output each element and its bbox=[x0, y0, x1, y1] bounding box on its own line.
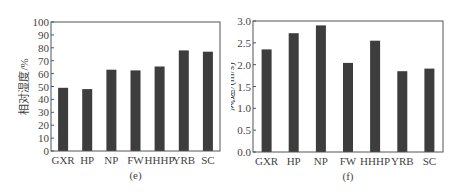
y-tick-label: 0 bbox=[44, 145, 50, 157]
bar-sc bbox=[203, 52, 213, 151]
humidity-bar-chart: GXRHPNPFWHHHPYRBSC0102030405060708090100… bbox=[0, 0, 232, 192]
x-tick-label: HHHP bbox=[145, 154, 175, 166]
panel-label: (e) bbox=[129, 169, 142, 182]
bar-hhhp bbox=[155, 67, 165, 152]
x-tick-label: FW bbox=[127, 154, 144, 166]
x-tick-label: YRB bbox=[172, 154, 195, 166]
x-tick-label: SC bbox=[201, 154, 214, 166]
y-tick-label: 30 bbox=[38, 106, 50, 118]
bar-gxr bbox=[58, 88, 68, 151]
x-tick-label: NP bbox=[314, 155, 328, 167]
x-tick-label: FW bbox=[340, 155, 357, 167]
bar-gxr bbox=[262, 49, 272, 152]
x-tick-label: HP bbox=[80, 154, 94, 166]
bar-fw bbox=[343, 63, 353, 152]
bar-sc bbox=[424, 69, 434, 152]
chart-wind-speed: GXRHPNPFWHHHPYRBSC0.00.51.01.52.02.53.0风… bbox=[231, 0, 463, 192]
y-tick-label: 10 bbox=[38, 132, 50, 144]
bar-hp bbox=[289, 33, 299, 152]
panel-label: (f) bbox=[343, 170, 354, 183]
y-axis-label: 风速/(m/s) bbox=[231, 62, 237, 111]
y-tick-label: 90 bbox=[38, 29, 50, 41]
y-tick-label: 100 bbox=[33, 16, 50, 28]
bar-hp bbox=[82, 89, 92, 151]
bar-np bbox=[316, 25, 326, 152]
y-tick-label: 60 bbox=[38, 68, 50, 80]
x-tick-label: YRB bbox=[391, 155, 414, 167]
y-tick-label: 80 bbox=[38, 42, 50, 54]
bar-yrb bbox=[397, 71, 407, 152]
y-tick-label: 1.0 bbox=[237, 102, 251, 114]
y-tick-label: 20 bbox=[38, 119, 50, 131]
bar-fw bbox=[131, 70, 141, 151]
bar-np bbox=[106, 70, 116, 151]
y-axis-label: 相对湿度/% bbox=[17, 58, 30, 114]
y-tick-label: 2.0 bbox=[237, 59, 251, 71]
y-tick-label: 1.5 bbox=[237, 81, 251, 93]
y-tick-label: 40 bbox=[38, 93, 50, 105]
wind-speed-bar-chart: GXRHPNPFWHHHPYRBSC0.00.51.01.52.02.53.0风… bbox=[231, 0, 463, 192]
chart-humidity: GXRHPNPFWHHHPYRBSC0102030405060708090100… bbox=[0, 0, 232, 192]
y-tick-label: 3.0 bbox=[237, 15, 251, 27]
x-tick-label: SC bbox=[423, 155, 436, 167]
y-tick-label: 0.5 bbox=[237, 124, 251, 136]
y-tick-label: 50 bbox=[38, 81, 50, 93]
x-tick-label: GXR bbox=[255, 155, 279, 167]
x-tick-label: HHHP bbox=[360, 155, 390, 167]
y-tick-label: 2.5 bbox=[237, 37, 251, 49]
x-tick-label: HP bbox=[287, 155, 301, 167]
bar-yrb bbox=[179, 50, 189, 151]
y-tick-label: 0.0 bbox=[237, 146, 251, 158]
bar-hhhp bbox=[370, 41, 380, 152]
x-tick-label: NP bbox=[104, 154, 118, 166]
y-tick-label: 70 bbox=[38, 55, 50, 67]
x-tick-label: GXR bbox=[51, 154, 75, 166]
